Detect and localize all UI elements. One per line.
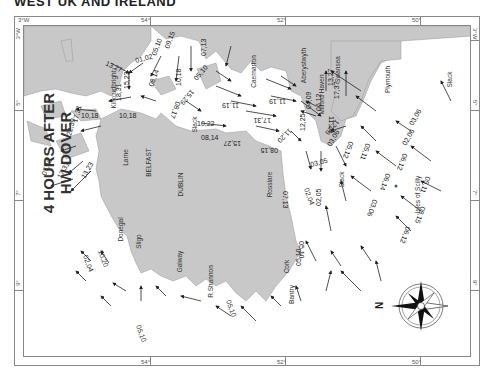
place-shannon: R.Shannon xyxy=(207,265,214,298)
place-isles-of-scilly: Isles of Scilly xyxy=(414,176,421,214)
tick-right: 3°W xyxy=(472,28,478,39)
slack-label: Slack xyxy=(338,172,345,188)
rate-label: 02,05 xyxy=(315,188,322,206)
rate-label: 05,10 xyxy=(295,248,302,266)
tidal-map: 13,27 01,02 05,10 09,15 07,13 18,31 15,2… xyxy=(24,26,471,357)
tick-mark xyxy=(471,40,480,41)
rate-label: 05,11 xyxy=(359,143,371,161)
tick-left: 3°W xyxy=(15,28,21,39)
land-wales-england xyxy=(151,26,471,146)
rate-label: 06,12 xyxy=(399,226,412,245)
rate-label: 12,25 xyxy=(299,113,306,131)
tick-bottom: 54° xyxy=(141,359,150,365)
rate-label: 02,06 xyxy=(401,128,416,147)
rate-label: 11,19 xyxy=(269,98,286,105)
rate-label: 03,06 xyxy=(408,108,423,127)
rate-label: 10,18 xyxy=(119,112,137,119)
place-plymouth: Plymouth xyxy=(384,66,391,93)
place-kirkcudbright: Kirkcudbright xyxy=(110,71,117,109)
slack-label: Slack xyxy=(446,72,453,88)
tick-top: 50° xyxy=(412,17,421,23)
tick-mark xyxy=(471,200,480,201)
tick-mark xyxy=(14,200,23,201)
tick-bottom: 52° xyxy=(277,359,286,365)
place-cork: Cork xyxy=(283,260,290,274)
rate-label: 05,10 xyxy=(135,324,148,343)
place-bantry: Bantry xyxy=(288,285,295,304)
place-aberystwyth: Aberystwyth xyxy=(300,48,307,83)
place-belfast: BELFAST xyxy=(145,148,152,177)
rate-label: 11,19 xyxy=(222,102,239,109)
tick-right: 5° xyxy=(472,100,478,106)
rate-label: 03,06 xyxy=(366,199,379,218)
tick-right: 9° xyxy=(472,280,478,286)
tick-left: 5° xyxy=(15,100,21,106)
rate-label: 15,27 xyxy=(223,140,241,147)
rate-label: 15,23 xyxy=(123,71,130,89)
rate-label: 17,31 xyxy=(253,117,271,124)
tick-mark xyxy=(150,16,151,25)
map-heading: 4 HOURS AFTER HW DOVER xyxy=(40,78,74,228)
rate-label: 07,13 xyxy=(282,191,289,209)
map-area: 13,27 01,02 05,10 09,15 07,13 18,31 15,2… xyxy=(23,25,471,357)
rate-label: 02,04 xyxy=(303,187,316,206)
slack-label: Slack xyxy=(191,117,198,133)
place-donegal: Donegal xyxy=(117,217,124,241)
rate-label: 05,10 xyxy=(225,299,238,318)
rate-label: 06,14 xyxy=(379,173,392,192)
rate-label: 07,13 xyxy=(200,38,207,56)
tick-mark xyxy=(150,357,151,366)
rate-label: 08,15 xyxy=(260,147,278,154)
rate-label: 05,10 xyxy=(150,37,163,56)
tick-top: 3°W xyxy=(18,17,29,23)
rate-label: 03,05 xyxy=(309,157,328,168)
rate-label: 04,09 xyxy=(305,91,312,109)
tick-mark xyxy=(14,290,23,291)
rate-label: 08,17 xyxy=(169,101,182,120)
rate-label: 02,04 xyxy=(82,254,95,273)
tick-top: 52° xyxy=(277,17,286,23)
north-label: N xyxy=(374,302,385,309)
place-galway: Galway xyxy=(176,251,183,273)
compass-rose: N xyxy=(374,281,448,331)
tick-mark xyxy=(14,110,23,111)
rate-label: 17,37 xyxy=(333,81,340,99)
rate-label: 10,18 xyxy=(175,68,182,86)
rate-label: 10,22 xyxy=(197,120,215,127)
tick-left: 9° xyxy=(15,280,21,286)
page-title: WEST UK AND IRELAND xyxy=(14,0,176,9)
tick-bottom: 50° xyxy=(412,359,421,365)
place-rosslare: Rosslare xyxy=(266,172,273,198)
rate-label: 10,18 xyxy=(81,112,99,119)
place-larne: Larne xyxy=(122,149,129,166)
rate-label: 13,23 xyxy=(80,161,95,180)
rate-label: 06,12 xyxy=(396,153,409,172)
heading-line-1: 4 HOURS AFTER xyxy=(40,78,57,228)
rate-label: 05,12 xyxy=(342,141,355,160)
rate-label: 10,20 xyxy=(97,249,110,268)
place-sligo: Sligo xyxy=(135,234,142,248)
tick-mark xyxy=(471,290,480,291)
heading-line-2: HW DOVER xyxy=(57,78,74,228)
place-swansea: Swansea xyxy=(334,56,341,83)
rate-label: 08,14 xyxy=(201,134,219,141)
place-caernarfon: Caernarfon xyxy=(250,55,257,88)
place-dublin: DUBLIN xyxy=(177,173,184,197)
land-ireland xyxy=(96,109,301,301)
place-milford-haven: Milford Haven xyxy=(318,74,325,114)
tick-top: 54° xyxy=(141,17,150,23)
tick-left: 7° xyxy=(15,190,21,196)
tick-right: 7° xyxy=(472,190,478,196)
rate-label: 11,20 xyxy=(276,127,293,144)
tick-mark xyxy=(471,110,480,111)
